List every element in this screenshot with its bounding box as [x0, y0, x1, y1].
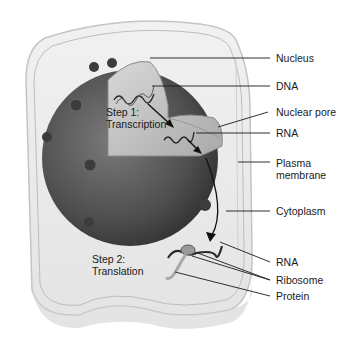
label-ribosome: Ribosome	[276, 274, 323, 286]
cell-diagram: Step 1: Transcription Step 2: Translatio…	[0, 0, 352, 348]
step-2-label: Step 2: Translation	[92, 253, 144, 277]
label-plasma-line1: Plasma	[276, 157, 326, 169]
ribosome-shape	[181, 245, 195, 255]
label-cytoplasm: Cytoplasm	[276, 205, 326, 217]
step-2-process: Translation	[92, 265, 144, 277]
step-2-title: Step 2:	[92, 253, 144, 265]
label-rna-nucleus: RNA	[276, 127, 298, 139]
label-nuclear-pore: Nuclear pore	[276, 106, 336, 118]
label-rna-cytoplasm: RNA	[276, 256, 298, 268]
step-1-process: Transcription	[106, 118, 166, 130]
label-dna: DNA	[276, 80, 298, 92]
label-plasma-membrane: Plasma membrane	[276, 157, 326, 181]
label-nucleus: Nucleus	[276, 52, 314, 64]
label-plasma-line2: membrane	[276, 169, 326, 181]
step-1-label: Step 1: Transcription	[106, 106, 166, 130]
step-1-title: Step 1:	[106, 106, 166, 118]
label-protein: Protein	[276, 290, 309, 302]
